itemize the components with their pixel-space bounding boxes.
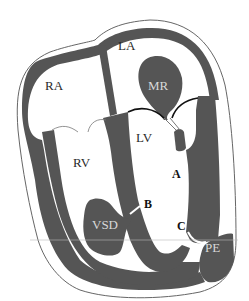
label-la: LA bbox=[118, 38, 136, 53]
label-ra: RA bbox=[45, 78, 64, 93]
label-lv: LV bbox=[136, 130, 153, 145]
label-c: C bbox=[177, 219, 186, 233]
label-vsd: VSD bbox=[92, 217, 118, 232]
label-b: B bbox=[144, 197, 152, 211]
label-a: A bbox=[172, 167, 181, 181]
heart-diagram: LA RA MR LV RV VSD PE A B C bbox=[0, 0, 249, 301]
label-pe: PE bbox=[205, 240, 220, 255]
label-mr: MR bbox=[148, 78, 169, 93]
label-rv: RV bbox=[73, 155, 91, 170]
